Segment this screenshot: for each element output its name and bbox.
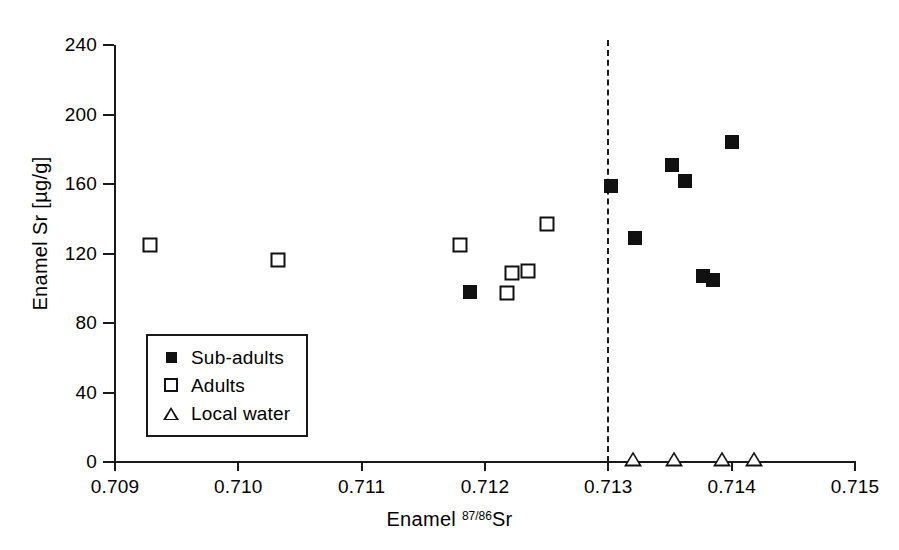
x-axis-title-suffix: Sr [492,508,513,530]
filled-square-icon [160,352,182,363]
y-tick-label: 40 [45,383,97,402]
y-tick-mark [103,322,114,324]
data-point-filled-square [678,174,692,188]
data-point-open-square [142,237,157,252]
x-tick-mark [361,461,363,471]
open-square-glyph [164,378,178,392]
x-tick-mark [607,461,609,471]
local-water-threshold-line [607,40,609,462]
data-point-filled-square [665,158,679,172]
scatter-plot-figure: 04080120160200240 0.7090.7100.7110.7120.… [0,0,899,550]
data-point-filled-square [463,285,477,299]
data-point-filled-square [604,179,618,193]
legend: Sub-adultsAdultsLocal water [146,334,308,437]
open-triangle-icon [160,407,182,420]
legend-item-local-water: Local water [160,399,290,427]
x-axis-title-superscript: 87/86 [462,509,492,523]
x-tick-mark [114,461,116,471]
x-tick-mark [237,461,239,471]
y-tick-label: 0 [45,452,97,471]
x-tick-label: 0.713 [553,476,663,497]
y-tick-label: 240 [45,35,97,54]
x-tick-mark [731,461,733,471]
x-tick-label: 0.715 [800,476,899,497]
data-point-open-triangle [665,452,683,467]
x-tick-mark [484,461,486,471]
legend-item-label: Sub-adults [191,348,284,367]
x-tick-label: 0.712 [430,476,540,497]
filled-square-glyph [166,352,177,363]
y-axis-title-text: Enamel Sr [µg/g] [29,156,51,310]
y-tick-label: 200 [45,105,97,124]
y-axis-line [114,45,116,463]
legend-item-sub-adults: Sub-adults [160,343,290,371]
data-point-open-square [521,263,536,278]
legend-item-label: Adults [191,376,245,395]
data-point-open-square [505,265,520,280]
data-point-filled-square [706,273,720,287]
legend-item-adults: Adults [160,371,290,399]
y-tick-label: 160 [45,174,97,193]
x-tick-label: 0.711 [307,476,417,497]
x-axis-title-prefix: Enamel [386,508,461,530]
x-axis-title: Enamel 87/86Sr [0,508,899,531]
data-point-filled-square [628,231,642,245]
y-tick-mark [103,392,114,394]
y-tick-label: 80 [45,313,97,332]
data-point-open-triangle [624,452,642,467]
data-point-open-square [500,286,515,301]
y-tick-mark [103,114,114,116]
data-point-filled-square [725,135,739,149]
data-point-open-triangle [745,452,763,467]
legend-item-label: Local water [191,404,290,423]
data-point-open-square [453,237,468,252]
open-square-icon [160,378,182,392]
data-point-open-square [270,253,285,268]
x-tick-label: 0.714 [677,476,787,497]
y-tick-label: 120 [45,244,97,263]
x-tick-label: 0.709 [60,476,170,497]
x-tick-mark [854,461,856,471]
y-axis-title: Enamel Sr [µg/g] [29,24,52,444]
y-tick-mark [103,183,114,185]
open-triangle-glyph [163,407,179,420]
data-point-open-triangle [713,452,731,467]
y-tick-mark [103,461,114,463]
y-tick-mark [103,253,114,255]
data-point-open-square [539,216,554,231]
x-tick-label: 0.710 [183,476,293,497]
y-tick-mark [103,44,114,46]
